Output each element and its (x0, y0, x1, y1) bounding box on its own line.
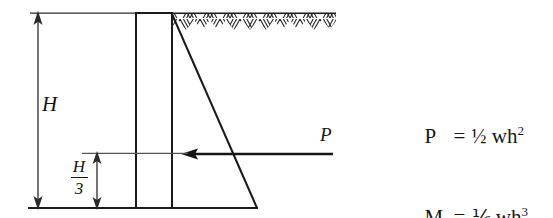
formula-equals-P: = (448, 123, 472, 150)
fraction-numerator: H (64, 157, 94, 176)
fraction-denominator: 3 (64, 179, 94, 198)
formula-coefficient-M: ⅙ (472, 206, 491, 218)
retaining-wall-diagram: H H 3 P P=½ wh2 M=⅙ wh3 (0, 0, 553, 218)
formula-lhs-M: M (425, 204, 448, 218)
formula-exponent-M: 3 (521, 204, 528, 218)
formula-expression-M: wh (496, 205, 522, 218)
dimension-label-H-over-3: H 3 (64, 157, 94, 198)
formula-lhs-P: P (425, 123, 448, 150)
formula-row-pressure: P=½ wh2 (393, 96, 528, 177)
ground-hatching (170, 12, 338, 34)
formula-equals-M: = (448, 204, 472, 218)
formula-expression-P: wh (492, 124, 518, 148)
retaining-wall-section (136, 13, 172, 208)
formula-coefficient-P: ½ (472, 125, 487, 147)
fraction-bar (71, 177, 88, 178)
resultant-force-arrow (181, 148, 333, 159)
dimension-label-H: H (42, 92, 57, 117)
pressure-triangle-hypotenuse (172, 14, 257, 208)
force-label-P: P (320, 124, 332, 146)
formula-block: P=½ wh2 M=⅙ wh3 (393, 96, 528, 218)
formula-row-moment: M=⅙ wh3 (393, 177, 528, 218)
formula-exponent-P: 2 (517, 123, 524, 138)
